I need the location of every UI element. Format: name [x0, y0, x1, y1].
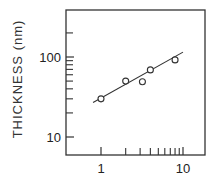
data-point-marker [98, 96, 104, 102]
y-tick-label: 10 [47, 130, 61, 145]
data-point-marker [139, 79, 145, 85]
y-axis-ticks [66, 33, 74, 137]
x-tick-label: 10 [176, 161, 190, 176]
fit-line [93, 52, 183, 102]
data-point-marker [172, 57, 178, 63]
thickness-chart: 110 10100 THICKNESS (nm) [0, 0, 218, 186]
data-point-marker [123, 78, 129, 84]
x-tick-label: 1 [97, 161, 104, 176]
plot-frame [66, 10, 205, 155]
data-points [98, 57, 178, 102]
data-point-marker [147, 67, 153, 73]
y-tick-label: 100 [39, 50, 61, 65]
y-axis-tick-labels: 10100 [39, 50, 61, 145]
x-axis-tick-labels: 110 [97, 161, 190, 176]
y-axis-label: THICKNESS (nm) [10, 20, 25, 139]
x-axis-ticks [101, 147, 183, 155]
